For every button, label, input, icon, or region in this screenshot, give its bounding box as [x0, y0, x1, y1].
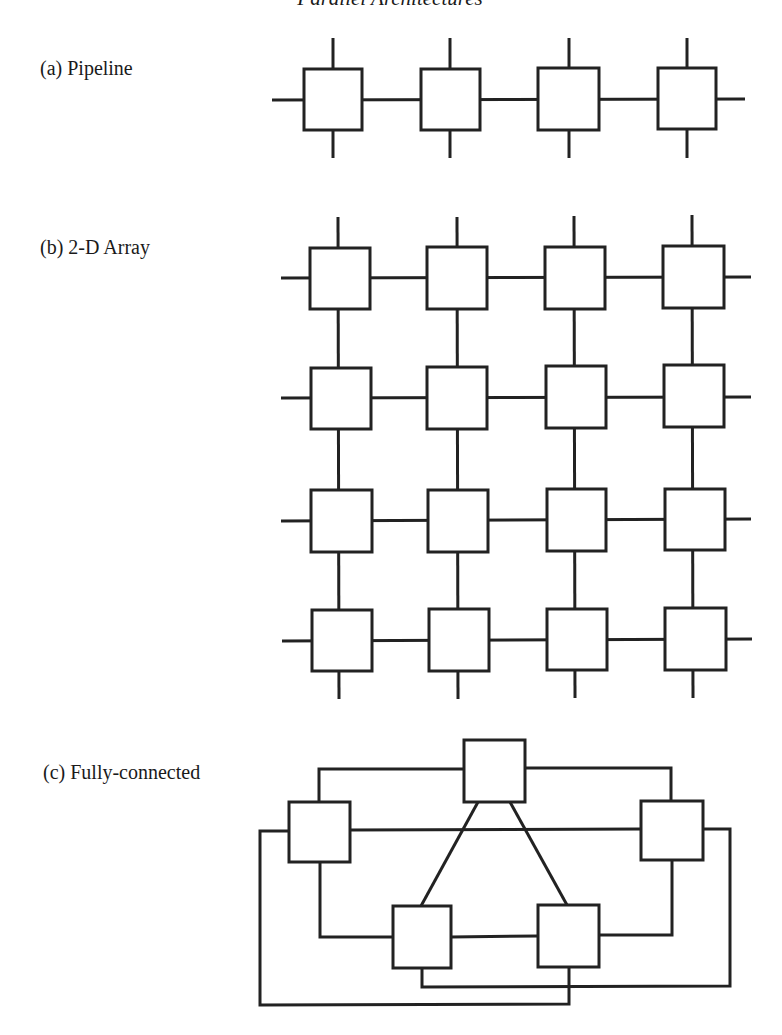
array2d-node-r1c4 [663, 246, 724, 308]
array2d-node-r4c2 [429, 609, 489, 671]
array2d-node-r4c4 [665, 608, 726, 670]
pipeline-node-1 [304, 69, 362, 130]
pipeline-node-3 [538, 68, 599, 130]
pipeline-node-2 [421, 69, 480, 130]
fully-connected-node-bottom-left [393, 906, 451, 968]
array2d-node-r2c3 [546, 366, 606, 428]
array2d-node-r3c1 [311, 490, 372, 552]
fully-connected-node-right [641, 801, 703, 860]
array2d-node-r4c1 [312, 610, 372, 671]
fully-connected-diagram [260, 740, 730, 1005]
array2d-node-r3c4 [665, 489, 725, 550]
array2d-node-r2c1 [311, 368, 371, 429]
pipeline-node-4 [658, 68, 716, 129]
array2d-node-r4c3 [547, 609, 607, 670]
pipeline-diagram [272, 38, 745, 158]
fully-connected-node-bottom-right [538, 905, 599, 967]
array2d-diagram [281, 215, 752, 699]
array2d-row-links [281, 277, 752, 641]
array2d-node-r1c3 [545, 247, 605, 309]
architecture-diagram [0, 0, 782, 1035]
array2d-node-r1c1 [310, 248, 370, 309]
array2d-node-r3c2 [428, 490, 488, 552]
array2d-node-r2c2 [427, 367, 487, 429]
array2d-node-r1c2 [427, 247, 487, 309]
array2d-column-links [338, 215, 693, 699]
fully-connected-node-left [289, 802, 350, 862]
fully-connected-node-top [464, 740, 525, 802]
array2d-node-r3c3 [547, 489, 606, 551]
array2d-node-r2c4 [664, 365, 724, 427]
